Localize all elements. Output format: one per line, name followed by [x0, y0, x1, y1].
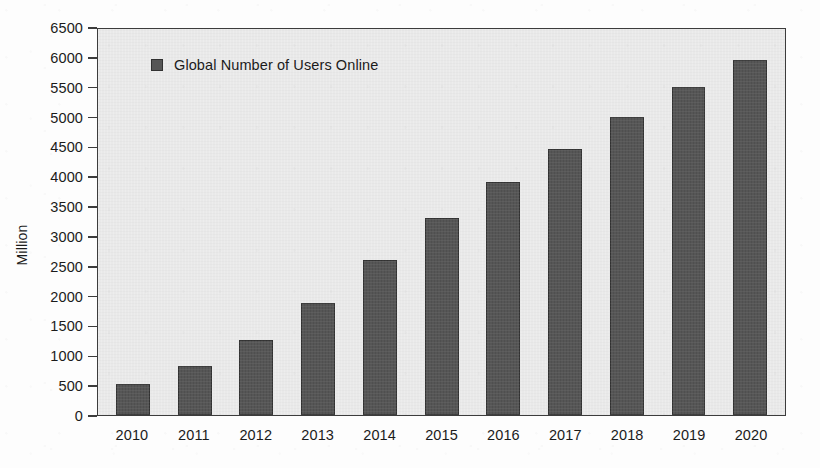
y-axis-tick: 5000	[50, 109, 97, 127]
y-axis-tick-mark	[88, 296, 97, 298]
y-axis-tick-mark	[88, 147, 97, 149]
y-axis-tick-label: 3500	[50, 199, 83, 215]
y-axis-tick: 2000	[50, 288, 97, 306]
bar-slot	[472, 29, 534, 415]
x-axis-tick-label: 2016	[472, 416, 534, 456]
x-axis-tick-label: 2014	[349, 416, 411, 456]
bar-slot	[719, 29, 781, 415]
bar-2013[interactable]	[301, 303, 335, 415]
bar-slot	[102, 29, 164, 415]
y-axis-tick-mark	[88, 27, 97, 29]
chart-legend: Global Number of Users Online	[151, 57, 378, 73]
y-axis-tick: 4500	[50, 138, 97, 156]
y-axis-tick: 500	[59, 377, 98, 395]
bar-slot	[534, 29, 596, 415]
x-axis-tick-label: 2013	[287, 416, 349, 456]
y-axis-tick-group: 0500100015002000250030003500400045005000…	[0, 28, 97, 416]
x-axis-tick-label: 2010	[101, 416, 163, 456]
y-axis-tick-mark	[88, 415, 97, 417]
y-axis-tick: 5500	[50, 79, 97, 97]
bar-slot	[287, 29, 349, 415]
x-axis-tick-label: 2019	[658, 416, 720, 456]
legend-swatch-icon	[151, 59, 163, 71]
bar-2018[interactable]	[610, 117, 644, 415]
y-axis-tick-label: 4000	[50, 169, 83, 185]
y-axis-tick-label: 2500	[50, 259, 83, 275]
y-axis-tick-label: 0	[75, 408, 83, 424]
y-axis-tick-mark	[88, 356, 97, 358]
bar-slot	[225, 29, 287, 415]
x-axis-tick-label: 2020	[720, 416, 782, 456]
y-axis-tick-label: 5500	[50, 80, 83, 96]
y-axis-tick-label: 1000	[50, 348, 83, 364]
y-axis-tick: 4000	[50, 168, 97, 186]
y-axis-tick: 3500	[50, 198, 97, 216]
y-axis-tick-label: 6500	[50, 20, 83, 36]
x-axis-tick-label: 2011	[163, 416, 225, 456]
bar-2019[interactable]	[672, 87, 706, 415]
x-axis-tick-label: 2012	[225, 416, 287, 456]
y-axis-tick-mark	[88, 87, 97, 89]
chart-figure: Million 05001000150020002500300035004000…	[0, 0, 820, 468]
y-axis-tick: 1500	[50, 317, 97, 335]
bar-2014[interactable]	[363, 260, 397, 415]
x-axis-tick-group: 2010201120122013201420152016201720182019…	[97, 416, 786, 456]
plot-area: Global Number of Users Online	[97, 28, 786, 416]
y-axis-tick-mark	[88, 57, 97, 59]
bar-2016[interactable]	[486, 182, 520, 415]
legend-entry-label: Global Number of Users Online	[174, 57, 378, 73]
y-axis-tick: 3000	[50, 228, 97, 246]
bar-slot	[411, 29, 473, 415]
bar-slot	[164, 29, 226, 415]
bar-2020[interactable]	[733, 60, 767, 415]
y-axis-tick: 0	[75, 407, 97, 425]
y-axis-tick-label: 500	[59, 378, 84, 394]
bar-slot	[658, 29, 720, 415]
bar-slot	[349, 29, 411, 415]
y-axis-tick-label: 3000	[50, 229, 83, 245]
bar-2010[interactable]	[116, 384, 150, 415]
bar-2011[interactable]	[178, 366, 212, 415]
x-axis-tick-label: 2018	[596, 416, 658, 456]
bar-slot	[596, 29, 658, 415]
y-axis-tick: 6000	[50, 49, 97, 67]
y-axis-tick-label: 1500	[50, 318, 83, 334]
y-axis-tick-label: 2000	[50, 289, 83, 305]
x-axis-tick-label: 2015	[411, 416, 473, 456]
bar-series-group	[98, 29, 785, 415]
bar-2015[interactable]	[425, 218, 459, 415]
x-axis-tick-label: 2017	[534, 416, 596, 456]
y-axis-tick-label: 6000	[50, 50, 83, 66]
bar-2012[interactable]	[239, 340, 273, 415]
y-axis-tick-mark	[88, 326, 97, 328]
y-axis-tick-label: 5000	[50, 110, 83, 126]
y-axis-tick: 1000	[50, 347, 97, 365]
bar-2017[interactable]	[548, 149, 582, 415]
y-axis-tick-label: 4500	[50, 139, 83, 155]
y-axis-tick-mark	[88, 236, 97, 238]
y-axis-tick-mark	[88, 117, 97, 119]
y-axis-tick-mark	[88, 176, 97, 178]
y-axis-tick-mark	[88, 266, 97, 268]
y-axis-tick: 6500	[50, 19, 97, 37]
y-axis-tick-mark	[88, 385, 97, 387]
y-axis-tick: 2500	[50, 258, 97, 276]
y-axis-tick-mark	[88, 206, 97, 208]
